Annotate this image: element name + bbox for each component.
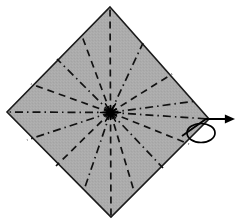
crease-n — [110, 7, 111, 113]
origami-diagram-figure: Origami crease pattern — square with rad… — [0, 0, 237, 222]
turn-over-arrowhead — [225, 115, 235, 124]
origami-diagram-canvas — [0, 0, 237, 222]
crease-s — [111, 113, 112, 218]
